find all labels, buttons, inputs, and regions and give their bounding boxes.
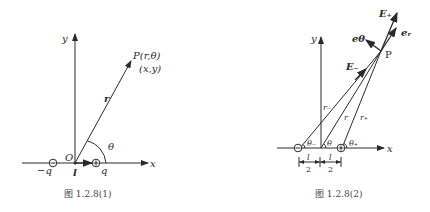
e-minus-label: E₋ (345, 61, 359, 72)
half-l-numerator-left: l (307, 153, 310, 162)
half-l-denominator-right: 2 (328, 165, 333, 174)
x-axis-label: x (387, 143, 393, 154)
unit-r-vector (381, 28, 396, 51)
positive-charge (92, 159, 100, 167)
theta-minus-arc (303, 145, 305, 149)
radius-vector (75, 61, 131, 163)
point-label: P (385, 49, 392, 60)
r-label: r (344, 113, 349, 122)
half-l-denominator-left: 2 (306, 165, 311, 174)
y-axis-label: y (310, 33, 317, 44)
origin-label: O (65, 152, 73, 163)
figure-2: y x E₊ eᵣ eθ E₋ P r₋ r r₊ θ₋ θ θ₊ (277, 8, 412, 199)
x-axis-label: x (150, 158, 156, 169)
negative-charge-label: −q (37, 165, 52, 176)
radius-vector-label: r (104, 93, 110, 104)
half-l-numerator-right: l (329, 153, 332, 162)
figure-2-caption: 图 1.2.8(2) (315, 189, 363, 199)
positive-charge-label: q (101, 165, 107, 176)
point-label: P(r,θ) (132, 50, 161, 61)
r-plus-label: r₊ (360, 113, 368, 122)
unit-theta-label: eθ (352, 33, 365, 44)
theta-minus-label: θ₋ (307, 139, 316, 148)
y-axis-label: y (61, 33, 68, 44)
unit-r-label: eᵣ (401, 27, 412, 38)
r-minus-label: r₋ (323, 103, 331, 112)
dipole-diagrams: y x r θ P(r,θ) (x,y) O −q q l 图 1.2.8(1)… (0, 0, 430, 212)
e-plus-label: E₊ (378, 8, 392, 19)
theta-label: θ (327, 139, 332, 148)
theta-plus-label: θ₊ (349, 139, 358, 148)
origin-dot (74, 162, 77, 165)
positive-charge (337, 144, 345, 152)
unit-theta-vector (366, 40, 381, 51)
dipole-length-label: l (73, 167, 77, 178)
theta-arc (324, 144, 326, 148)
angle-label: θ (108, 141, 114, 152)
figure-1-caption: 图 1.2.8(1) (64, 189, 112, 199)
figure-1: y x r θ P(r,θ) (x,y) O −q q l 图 1.2.8(1) (22, 33, 161, 199)
r-minus-line (300, 51, 381, 148)
negative-charge (294, 144, 302, 152)
point-cartesian-label: (x,y) (139, 63, 161, 74)
